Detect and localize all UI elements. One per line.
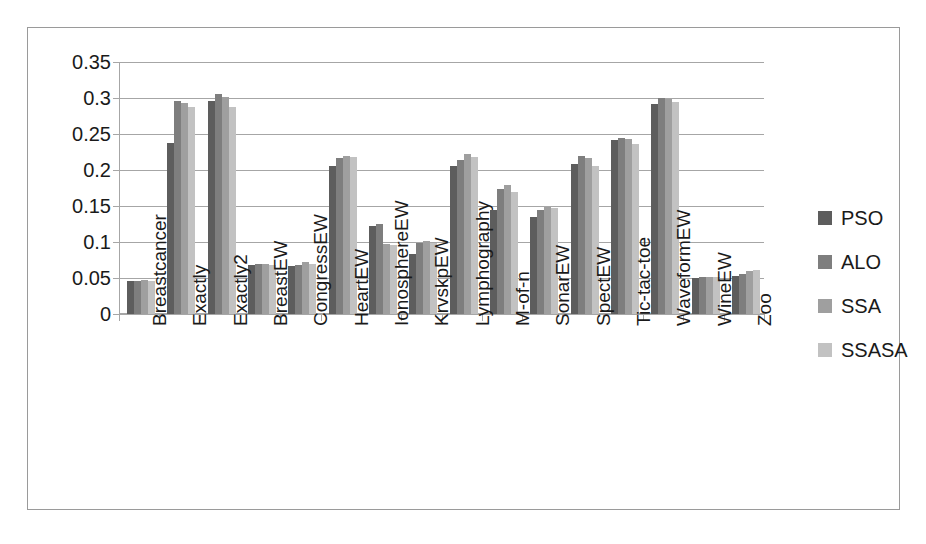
- bar: [699, 277, 706, 314]
- bar: [383, 244, 390, 314]
- bar: [578, 156, 585, 314]
- x-tick-label: SpectEW: [593, 247, 615, 326]
- y-tick-label: 0.1: [83, 231, 111, 254]
- legend-swatch-icon: [818, 343, 832, 357]
- legend-swatch-icon: [818, 299, 832, 313]
- x-tick-label: Breastcancer: [149, 214, 171, 326]
- bar: [302, 262, 309, 314]
- bar: [416, 243, 423, 314]
- x-tick-label: Lymphography: [472, 201, 494, 326]
- y-tick-label: 0.25: [72, 123, 111, 146]
- x-tick-label: M-of-n: [512, 271, 534, 326]
- bar: [504, 185, 511, 314]
- bar: [181, 103, 188, 314]
- x-tick-label: KrvskpEW: [431, 237, 453, 326]
- bar: [423, 241, 430, 314]
- bar: [665, 99, 672, 314]
- bar: [127, 281, 134, 314]
- legend-item-alo[interactable]: ALO: [818, 240, 926, 284]
- x-tick-label: WineEW: [714, 252, 736, 326]
- bar: [537, 210, 544, 314]
- bar: [658, 98, 665, 314]
- bar: [174, 101, 181, 314]
- legend-swatch-icon: [818, 211, 832, 225]
- y-axis-line: [119, 62, 120, 314]
- bar: [457, 160, 464, 314]
- bar: [618, 138, 625, 314]
- bar: [255, 264, 262, 314]
- y-tick-label: 0.05: [72, 267, 111, 290]
- bar: [706, 277, 713, 314]
- legend-item-pso[interactable]: PSO: [818, 196, 926, 240]
- y-tick-label: 0.15: [72, 195, 111, 218]
- y-tick-label: 0.2: [83, 159, 111, 182]
- bar: [336, 158, 343, 314]
- legend-label: ALO: [841, 251, 881, 274]
- chart-frame: 00.050.10.150.20.250.30.35 BreastcancerE…: [27, 27, 900, 510]
- legend-swatch-icon: [818, 255, 832, 269]
- bar: [343, 156, 350, 314]
- chart-legend: PSOALOSSASSASA: [818, 196, 926, 372]
- bar: [497, 189, 504, 314]
- bar: [262, 264, 269, 314]
- x-tick-label: BreastEW: [270, 240, 292, 326]
- bar: [376, 224, 383, 314]
- x-tick-label: CongressEW: [310, 214, 332, 326]
- plot-area: 00.050.10.150.20.250.30.35 BreastcancerE…: [119, 62, 764, 314]
- x-tick-label: SonarEW: [552, 245, 574, 326]
- bar: [625, 139, 632, 314]
- bar: [544, 207, 551, 314]
- bar: [295, 265, 302, 314]
- bar: [464, 154, 471, 314]
- bar-group: [732, 62, 760, 314]
- x-tick-label: Exactly2: [230, 254, 252, 326]
- x-tick-label: HeartEW: [351, 249, 373, 326]
- legend-label: PSO: [841, 207, 883, 230]
- y-tick-label: 0: [100, 303, 111, 326]
- bar: [585, 158, 592, 314]
- legend-label: SSASA: [841, 339, 908, 362]
- legend-label: SSA: [841, 295, 881, 318]
- x-tick-mark: [119, 314, 120, 321]
- legend-item-ssasa[interactable]: SSASA: [818, 328, 926, 372]
- y-tick-label: 0.3: [83, 87, 111, 110]
- x-tick-label: WaveformEW: [673, 210, 695, 326]
- x-tick-label: IonosphereEW: [391, 200, 413, 326]
- x-tick-label: Exactly: [189, 265, 211, 326]
- bar: [134, 281, 141, 314]
- bar: [222, 97, 229, 314]
- x-tick-label: Zoo: [754, 293, 776, 326]
- bar: [141, 280, 148, 314]
- bar: [215, 94, 222, 314]
- x-tick-label: Tic-tac-toe: [633, 237, 655, 326]
- bar: [739, 274, 746, 314]
- y-tick-label: 0.35: [72, 51, 111, 74]
- legend-item-ssa[interactable]: SSA: [818, 284, 926, 328]
- bar: [746, 271, 753, 314]
